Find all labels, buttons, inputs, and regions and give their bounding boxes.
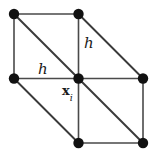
- diagonal-bottom-right-cell: [79, 79, 144, 144]
- node-mid-right: [138, 73, 148, 83]
- node-top-left: [9, 9, 19, 19]
- node-bottom-mid: [73, 138, 83, 148]
- xi-base-symbol: x: [62, 83, 70, 98]
- node-mid-left: [9, 73, 19, 83]
- spacing-label-h-horizontal: h: [38, 62, 48, 77]
- node-center-xi: [73, 73, 83, 83]
- mesh-diagram-figure: h h xi: [0, 0, 160, 162]
- spacing-label-h-vertical: h: [84, 36, 94, 51]
- xi-subscript-symbol: i: [70, 92, 73, 103]
- center-node-label-xi: xi: [62, 84, 73, 100]
- mesh-graphic: [0, 0, 160, 162]
- node-top-mid: [73, 9, 83, 19]
- node-bottom-right: [138, 138, 148, 148]
